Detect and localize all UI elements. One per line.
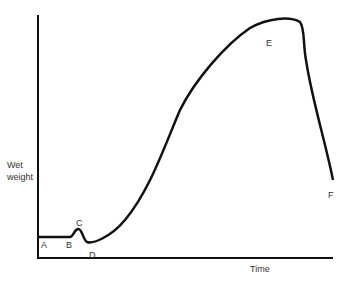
- point-label-b: B: [66, 240, 72, 250]
- growth-curve-chart: Wet weight Time A B C D E F: [0, 0, 341, 281]
- point-label-e: E: [266, 38, 272, 48]
- x-axis-label: Time: [250, 264, 270, 274]
- point-label-a: A: [41, 240, 47, 250]
- y-axis-label-line1: Wet: [7, 160, 23, 170]
- wet-weight-curve: [38, 19, 333, 243]
- point-label-f: F: [328, 190, 334, 200]
- y-axis-label-line2: weight: [7, 172, 33, 182]
- point-label-c: C: [76, 218, 83, 228]
- chart-svg: [0, 0, 341, 281]
- point-label-d: D: [89, 250, 96, 260]
